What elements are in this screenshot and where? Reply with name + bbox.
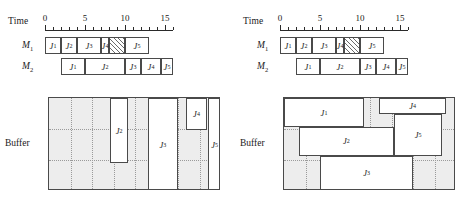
task-block-idle-m1[interactable] (344, 37, 360, 54)
axis-tick-8 (344, 27, 345, 31)
axis-tick-label-15: 15 (390, 13, 410, 23)
axis-tick-10 (360, 25, 361, 30)
task-block-m1-j2[interactable]: J2 (61, 37, 77, 54)
axis-tick-15 (400, 25, 401, 30)
axis-tick-8 (109, 27, 110, 31)
axis-tick-9 (117, 27, 118, 31)
machine-label-m2: M2 (257, 61, 268, 73)
machine-label-m1: M1 (257, 40, 268, 52)
task-block-m1-j5[interactable]: J5 (360, 37, 384, 54)
axis-tick-3 (304, 27, 305, 31)
task-block-m2-j5[interactable]: J5 (396, 58, 408, 75)
axis-tick-0 (45, 25, 46, 30)
axis-tick-14 (392, 27, 393, 31)
time-axis-caption: Time (8, 16, 29, 26)
axis-tick-1 (53, 27, 54, 31)
panel-left: Time051015M1J1J2J3J4J5M2J1J2J3J4J5Buffer… (0, 0, 236, 205)
buffer-gridline-h-2 (49, 160, 219, 161)
axis-tick-14 (157, 27, 158, 31)
axis-tick-label-5: 5 (75, 13, 95, 23)
machine-label-m2: M2 (22, 61, 33, 73)
buffer-box-j2[interactable]: J2 (299, 127, 394, 155)
axis-tick-4 (312, 27, 313, 31)
time-axis-line (280, 30, 408, 31)
buffer-gridline-v-1 (71, 98, 72, 189)
axis-tick-6 (93, 27, 94, 31)
axis-tick-9 (352, 27, 353, 31)
buffer-box-j2[interactable]: J2 (110, 98, 128, 163)
axis-tick-label-5: 5 (310, 13, 330, 23)
axis-tick-16 (173, 27, 174, 31)
buffer-label: Buffer (5, 138, 30, 148)
axis-tick-15 (165, 25, 166, 30)
buffer-box-j3[interactable]: J3 (148, 98, 178, 190)
buffer-gridline-v-4 (135, 98, 136, 189)
task-block-m2-j5[interactable]: J5 (161, 58, 173, 75)
axis-tick-label-0: 0 (35, 13, 55, 23)
task-block-m2-j3[interactable]: J3 (360, 58, 376, 75)
axis-tick-label-15: 15 (155, 13, 175, 23)
flowshop-buffer-figure: Time051015M1J1J2J3J4J5M2J1J2J3J4J5Buffer… (0, 0, 471, 205)
axis-tick-7 (101, 27, 102, 31)
axis-tick-13 (384, 27, 385, 31)
task-block-m2-j2[interactable]: J2 (85, 58, 125, 75)
axis-tick-13 (149, 27, 150, 31)
buffer-box-j4[interactable]: J4 (186, 98, 208, 130)
time-axis-caption: Time (243, 16, 264, 26)
axis-tick-5 (320, 25, 321, 30)
axis-tick-12 (141, 27, 142, 31)
buffer-box-j1[interactable]: J1 (284, 98, 364, 127)
task-block-idle-m1[interactable] (109, 37, 125, 54)
task-block-m1-j1[interactable]: J1 (45, 37, 61, 54)
axis-tick-12 (376, 27, 377, 31)
axis-tick-3 (69, 27, 70, 31)
task-block-m2-j3[interactable]: J3 (125, 58, 141, 75)
buffer-frame: J1J4J2J5J3 (283, 97, 455, 190)
axis-tick-11 (133, 27, 134, 31)
axis-tick-5 (85, 25, 86, 30)
axis-tick-label-10: 10 (115, 13, 135, 23)
task-block-m1-j3[interactable]: J3 (77, 37, 101, 54)
buffer-gridline-v-6 (178, 98, 179, 189)
panel-right: Time051015M1J1J2J3J4J5M2J1J2J3J4J5Buffer… (235, 0, 471, 205)
axis-tick-16 (408, 27, 409, 31)
axis-tick-6 (328, 27, 329, 31)
task-block-m2-j1[interactable]: J1 (296, 58, 320, 75)
axis-tick-1 (288, 27, 289, 31)
axis-tick-7 (336, 27, 337, 31)
axis-tick-0 (280, 25, 281, 30)
buffer-label: Buffer (240, 138, 265, 148)
buffer-box-j5[interactable]: J5 (394, 114, 442, 155)
axis-tick-label-0: 0 (270, 13, 290, 23)
axis-tick-4 (77, 27, 78, 31)
task-block-m2-j1[interactable]: J1 (61, 58, 85, 75)
time-axis-line (45, 30, 173, 31)
axis-tick-2 (61, 27, 62, 31)
task-block-m1-j1[interactable]: J1 (280, 37, 296, 54)
buffer-box-j5[interactable]: J5 (208, 98, 220, 190)
task-block-m2-j4[interactable]: J4 (141, 58, 161, 75)
task-block-m1-j3[interactable]: J3 (312, 37, 336, 54)
axis-tick-2 (296, 27, 297, 31)
machine-label-m1: M1 (22, 40, 33, 52)
axis-tick-11 (368, 27, 369, 31)
buffer-box-j4[interactable]: J4 (379, 98, 445, 114)
task-block-m2-j4[interactable]: J4 (376, 58, 396, 75)
task-block-m1-j5[interactable]: J5 (125, 37, 149, 54)
buffer-frame: J2J3J4J5 (48, 97, 220, 190)
buffer-gridline-v-2 (92, 98, 93, 189)
task-block-m1-j4[interactable]: J4 (336, 37, 344, 54)
task-block-m1-j2[interactable]: J2 (296, 37, 312, 54)
axis-tick-10 (125, 25, 126, 30)
task-block-m1-j4[interactable]: J4 (101, 37, 109, 54)
task-block-m2-j2[interactable]: J2 (320, 58, 360, 75)
axis-tick-label-10: 10 (350, 13, 370, 23)
buffer-box-j3[interactable]: J3 (320, 156, 413, 190)
